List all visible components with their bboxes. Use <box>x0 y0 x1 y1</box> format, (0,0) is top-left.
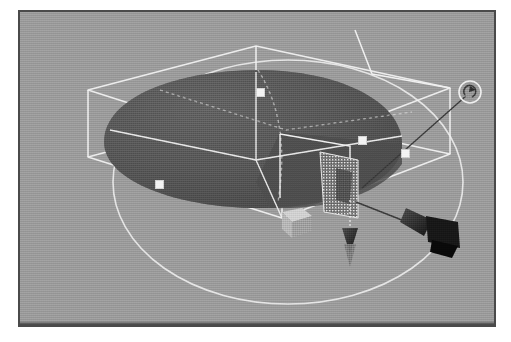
bbox-handle-left[interactable] <box>155 180 164 189</box>
bbox-handle-right-upper[interactable] <box>358 136 367 145</box>
viewport-frame[interactable] <box>18 10 496 327</box>
screenshot-root <box>0 0 511 342</box>
viewport-canvas[interactable] <box>20 12 494 325</box>
bbox-handle-right-lower[interactable] <box>401 149 410 158</box>
bbox-handle-top[interactable] <box>256 88 265 97</box>
hatched-face-region[interactable] <box>320 152 358 218</box>
